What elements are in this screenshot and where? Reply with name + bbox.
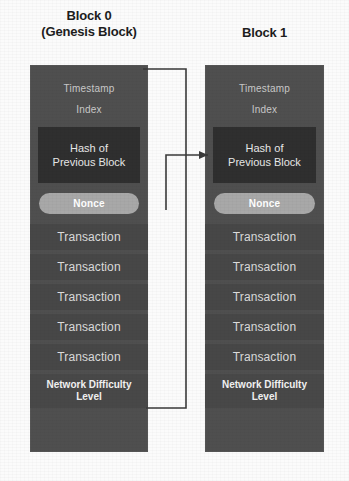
- transaction-row: Transaction: [30, 224, 148, 250]
- block-0: Timestamp Index Hash of Previous Block N…: [30, 65, 148, 452]
- block0-to-block1-hash-connector: [166, 155, 208, 210]
- block-0-timestamp-label: Timestamp: [30, 83, 148, 94]
- block-1-difficulty-line1: Network Difficulty: [222, 379, 307, 391]
- block-0-title: Block 0 (Genesis Block): [16, 8, 162, 40]
- block-1-hash-line1: Hash of: [228, 141, 301, 155]
- transaction-row: Transaction: [205, 314, 324, 340]
- transaction-row: Transaction: [30, 284, 148, 310]
- block-1-timestamp-label: Timestamp: [205, 83, 324, 94]
- block-0-transaction-list: Transaction Transaction Transaction Tran…: [30, 224, 148, 370]
- transaction-row: Transaction: [205, 224, 324, 250]
- block-1-nonce-pill: Nonce: [214, 193, 315, 214]
- block-1-index-label: Index: [205, 104, 324, 115]
- block-0-previous-hash-box: Hash of Previous Block: [38, 127, 140, 183]
- genesis-self-reference-connector: [143, 69, 186, 408]
- block-0-nonce-pill: Nonce: [39, 193, 139, 214]
- block-0-difficulty-line2: Level: [46, 391, 131, 403]
- block-0-title-line1: Block 0: [16, 8, 162, 24]
- transaction-row: Transaction: [30, 344, 148, 370]
- block-1-transaction-list: Transaction Transaction Transaction Tran…: [205, 224, 324, 370]
- block-0-hash-line2: Previous Block: [53, 155, 126, 169]
- block-0-hash-line1: Hash of: [53, 141, 126, 155]
- block-0-title-line2: (Genesis Block): [16, 24, 162, 40]
- block-1-nonce-label: Nonce: [249, 198, 281, 209]
- block-0-network-difficulty: Network Difficulty Level: [30, 374, 148, 408]
- block-1-difficulty-line2: Level: [222, 391, 307, 403]
- block-0-difficulty-line1: Network Difficulty: [46, 379, 131, 391]
- block-1: Timestamp Index Hash of Previous Block N…: [205, 65, 324, 452]
- block-1-title-line1: Block 1: [205, 25, 324, 41]
- block-1-network-difficulty: Network Difficulty Level: [205, 374, 324, 408]
- transaction-row: Transaction: [30, 314, 148, 340]
- block-1-previous-hash-box: Hash of Previous Block: [213, 127, 316, 183]
- block-1-title: Block 1: [205, 25, 324, 41]
- block-1-hash-line2: Previous Block: [228, 155, 301, 169]
- block-0-index-label: Index: [30, 104, 148, 115]
- transaction-row: Transaction: [205, 344, 324, 370]
- transaction-row: Transaction: [205, 254, 324, 280]
- transaction-row: Transaction: [30, 254, 148, 280]
- block-0-nonce-label: Nonce: [73, 198, 105, 209]
- transaction-row: Transaction: [205, 284, 324, 310]
